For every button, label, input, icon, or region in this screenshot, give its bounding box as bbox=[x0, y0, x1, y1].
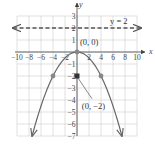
y-tick-label: 3 bbox=[72, 12, 76, 21]
x-tick-label: 6 bbox=[111, 53, 115, 62]
y-tick-label: 1 bbox=[72, 36, 76, 45]
y-tick-label: −7 bbox=[68, 132, 76, 141]
x-tick-label: −4 bbox=[49, 53, 57, 62]
parabola-chart: xy −10−8−6−4−2246810321−1−2−3−4−5−6−7 y … bbox=[0, 0, 155, 149]
directrix-label: y = 2 bbox=[110, 16, 128, 26]
point bbox=[99, 74, 104, 79]
focus-label: (0, −2) bbox=[82, 101, 105, 111]
x-axis-label: x bbox=[148, 47, 153, 56]
x-tick-label: 8 bbox=[123, 53, 127, 62]
focus-point bbox=[75, 74, 80, 79]
focus-leader-line bbox=[78, 78, 92, 99]
point bbox=[51, 74, 56, 79]
y-axis-label: y bbox=[78, 0, 83, 9]
axes: xy bbox=[15, 0, 153, 136]
x-tick-label: −10 bbox=[11, 53, 23, 62]
x-tick-label: 10 bbox=[133, 53, 141, 62]
y-tick-label: −3 bbox=[68, 84, 76, 93]
y-tick-label: −5 bbox=[68, 108, 76, 117]
x-tick-label: 4 bbox=[99, 53, 103, 62]
vertex-point bbox=[75, 50, 80, 55]
y-tick-label: −6 bbox=[68, 120, 76, 129]
y-tick-label: −1 bbox=[68, 60, 76, 69]
x-tick-label: −8 bbox=[25, 53, 33, 62]
annotations: y = 2(0, 0)(0, −2) bbox=[80, 16, 128, 111]
x-tick-label: −6 bbox=[37, 53, 45, 62]
vertex-label: (0, 0) bbox=[80, 37, 99, 47]
y-tick-label: −4 bbox=[68, 96, 76, 105]
